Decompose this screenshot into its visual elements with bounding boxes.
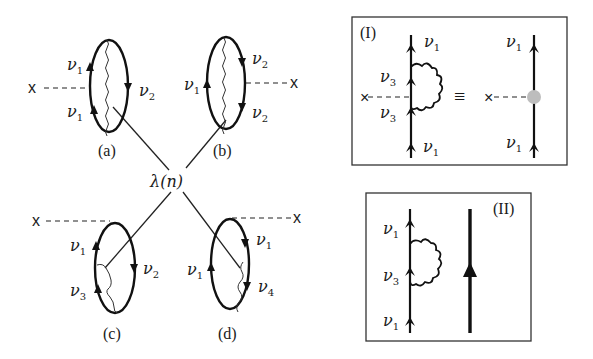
- label-nu1-bottom: ν1: [423, 137, 439, 158]
- external-x: x: [293, 209, 301, 226]
- equivalence-symbol: ≡: [454, 85, 465, 107]
- label-nu1: ν1: [70, 236, 86, 257]
- label-nu1-top: ν1: [67, 55, 83, 76]
- panel-title: (II): [493, 200, 514, 218]
- caption-a: (a): [98, 142, 116, 160]
- panel-II: (II) ν1 ν3 ν1: [366, 193, 531, 341]
- caption-c: (c): [103, 325, 121, 343]
- external-x: x: [290, 74, 298, 91]
- caption-b: (b): [213, 142, 232, 160]
- label-nu2: ν2: [139, 81, 155, 102]
- diagram-b: x ν1 ν2 ν2 (b): [184, 37, 298, 160]
- diagram-d: x ν1 ν1 ν4 (d): [187, 209, 301, 343]
- cross-icon: ×: [484, 89, 493, 106]
- diagram-c: x ν1 ν2 ν3 (c): [32, 212, 159, 343]
- label-nu2-bottom: ν2: [252, 103, 268, 124]
- label-nu4: ν4: [258, 277, 274, 298]
- panel-I: (I) × ν1 ν3 ν3 ν1 ≡ × ν1 ν1: [352, 17, 567, 165]
- label-nu1-bottom-right: ν1: [506, 133, 522, 154]
- panel-title: (I): [360, 24, 376, 42]
- external-x: x: [28, 79, 36, 96]
- label-nu3-top: ν3: [380, 67, 396, 88]
- arrow-up-icon: [463, 262, 477, 277]
- label-nu1-right: ν1: [256, 230, 272, 251]
- label-nu2: ν2: [143, 259, 159, 280]
- label-nu1-top-right: ν1: [506, 32, 522, 53]
- caption-d: (d): [218, 325, 237, 343]
- label-nu3: ν3: [383, 266, 399, 287]
- label-nu1-bottom: ν1: [67, 102, 83, 123]
- cross-icon: ×: [360, 89, 369, 106]
- diagram-a: x ν1 ν2 ν1 (a): [28, 40, 155, 160]
- feynman-figure: λ(n) x ν1 ν2 ν1 (a) x ν1 ν2 ν2 (b) x: [0, 0, 593, 359]
- label-nu3: ν3: [70, 281, 86, 302]
- label-nu1-left: ν1: [187, 260, 203, 281]
- label-nu1-top: ν1: [424, 32, 440, 53]
- label-nu1-bottom: ν1: [383, 311, 399, 332]
- self-energy-blob: [527, 90, 541, 104]
- center-label: λ(n): [149, 172, 183, 191]
- label-nu1-top: ν1: [383, 219, 399, 240]
- external-x: x: [32, 212, 40, 229]
- label-nu3-bottom: ν3: [380, 103, 396, 124]
- label-nu2-top: ν2: [252, 49, 268, 70]
- label-nu1: ν1: [184, 75, 200, 96]
